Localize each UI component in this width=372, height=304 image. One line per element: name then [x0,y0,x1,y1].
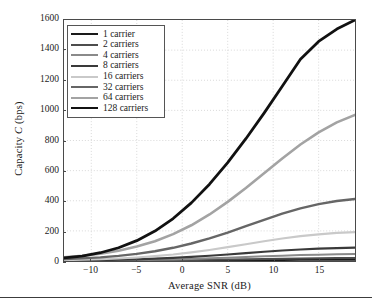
y-tick-mark [63,110,66,111]
x-tick-label: −10 [83,266,98,276]
y-tick-mark [63,232,66,233]
chart-legend: 1 carrier2 carriers4 carriers8 carriers1… [67,25,165,118]
legend-item-label: 2 carriers [103,40,139,50]
x-tick-mark [319,259,320,262]
figure-container: 02004006008001000120014001600 −10−505101… [0,0,372,304]
y-tick-label: 1400 [40,45,59,55]
y-axis-title: Capacity C (bps) [13,39,24,239]
legend-swatch [71,33,98,35]
x-tick-label: −5 [131,266,141,276]
x-tick-mark [90,259,91,262]
y-tick-label: 400 [45,197,59,207]
x-tick-mark [182,259,183,262]
y-tick-mark [63,171,66,172]
x-tick-mark [274,259,275,262]
footer-divider [0,297,372,298]
x-tick-label: 5 [225,266,230,276]
legend-item: 128 carriers [71,103,160,114]
legend-item-label: 8 carriers [103,61,139,71]
x-tick-label: 15 [315,266,325,276]
x-axis-title: Average SNR (dB) [63,280,356,291]
y-tick-mark [63,49,66,50]
legend-swatch [71,107,98,109]
legend-swatch [71,86,98,88]
legend-item-label: 64 carriers [103,93,143,103]
y-tick-label: 200 [45,227,59,237]
y-axis-title-text: Capacity [13,137,24,176]
y-tick-label: 1600 [40,14,59,24]
x-tick-mark [136,259,137,262]
legend-swatch [71,97,98,99]
y-tick-mark [63,262,66,263]
legend-item: 2 carriers [71,40,160,51]
legend-item: 1 carrier [71,29,160,40]
legend-swatch [71,54,98,56]
legend-item-label: 4 carriers [103,51,139,61]
x-tick-mark [228,259,229,262]
legend-item-label: 128 carriers [103,104,148,114]
legend-item-label: 1 carrier [103,30,135,40]
legend-item-label: 32 carriers [103,83,143,93]
y-axis-title-units: (bps) [13,101,24,124]
legend-item: 8 carriers [71,61,160,72]
legend-item: 64 carriers [71,93,160,104]
legend-swatch [71,65,98,67]
x-tick-label: 0 [180,266,185,276]
y-tick-label: 1200 [40,75,59,85]
y-tick-mark [63,141,66,142]
legend-item-label: 16 carriers [103,72,143,82]
legend-swatch [71,44,98,46]
y-axis-tick-labels: 02004006008001000120014001600 [0,0,59,304]
y-axis-title-symbol: C [13,127,24,134]
y-tick-label: 1000 [40,105,59,115]
y-tick-mark [63,80,66,81]
legend-item: 16 carriers [71,71,160,82]
x-tick-label: 10 [269,266,279,276]
y-tick-label: 800 [45,136,59,146]
y-tick-mark [63,201,66,202]
legend-item: 32 carriers [71,82,160,93]
y-tick-label: 600 [45,166,59,176]
legend-swatch [71,76,98,78]
legend-item: 4 carriers [71,50,160,61]
y-tick-mark [63,19,66,20]
